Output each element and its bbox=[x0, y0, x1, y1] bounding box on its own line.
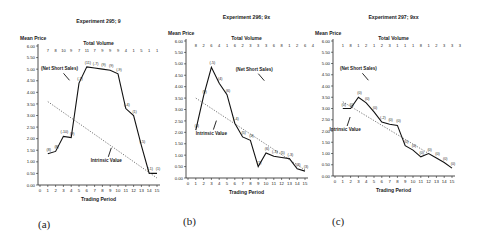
volume-value: 6 bbox=[273, 43, 276, 48]
x-tick-label: 4 bbox=[70, 188, 73, 193]
chart-title: Experiment 297; 9xx bbox=[368, 14, 418, 20]
volume-value: 10 bbox=[61, 48, 66, 53]
volume-value: 4 bbox=[218, 43, 221, 48]
volume-value: 1 bbox=[412, 43, 415, 48]
net-short-sales-label: (0) bbox=[373, 106, 377, 110]
net-short-sales-label: (-7) bbox=[93, 62, 99, 66]
y-tick-label: 6.00 bbox=[27, 44, 36, 49]
chart-title: Experiment 296; 9x bbox=[223, 14, 270, 20]
x-tick-label: 9 bbox=[109, 188, 112, 193]
volume-value: 9 bbox=[70, 48, 73, 53]
volume-value: 7 bbox=[78, 48, 81, 53]
x-tick-label: 6 bbox=[381, 179, 384, 184]
x-tick-label: 1 bbox=[195, 181, 198, 186]
x-tick-label: 0 bbox=[39, 188, 42, 193]
y-tick-label: 1.50 bbox=[175, 141, 184, 146]
volume-value: 1 bbox=[427, 43, 430, 48]
y-tick-label: 4.50 bbox=[27, 78, 36, 83]
volume-value: 1 bbox=[373, 43, 376, 48]
x-tick-label: 2 bbox=[202, 181, 205, 186]
net-short-sales-label: (8) bbox=[54, 145, 58, 149]
x-tick-label: 8 bbox=[396, 179, 399, 184]
intrinsic-value-annotation: Intrinsic Value bbox=[91, 158, 123, 163]
total-volume-label: Total Volume bbox=[378, 35, 409, 41]
x-tick-label: 10 bbox=[264, 181, 269, 186]
volume-value: 3 bbox=[459, 43, 462, 48]
volume-value: 8 bbox=[349, 43, 352, 48]
volume-value: 8 bbox=[280, 43, 283, 48]
y-tick-label: 6.00 bbox=[175, 39, 184, 44]
volume-value: 1 bbox=[132, 48, 135, 53]
volume-value: 9 bbox=[101, 48, 104, 53]
net-short-sales-label: (0) bbox=[435, 152, 439, 156]
net-short-sales-label: (0) bbox=[388, 118, 392, 122]
pointer-arrow bbox=[64, 73, 70, 80]
pointer-arrow bbox=[347, 117, 350, 126]
net-short-sales-label: (4) bbox=[249, 134, 253, 138]
x-tick-label: 11 bbox=[419, 179, 424, 184]
volume-value: 3 bbox=[257, 43, 260, 48]
x-tick-label: 3 bbox=[62, 188, 65, 193]
net-short-sales-label: (3) bbox=[304, 165, 308, 169]
y-tick-label: 4.50 bbox=[322, 72, 331, 77]
y-tick-label: 4.00 bbox=[175, 84, 184, 89]
net-short-sales-label: (6) bbox=[226, 89, 230, 93]
net-short-sales-label: (1) bbox=[132, 110, 136, 114]
volume-value: 3 bbox=[451, 43, 454, 48]
x-tick-label: 7 bbox=[388, 179, 391, 184]
x-tick-label: 12 bbox=[131, 188, 136, 193]
x-tick-label: 13 bbox=[287, 181, 292, 186]
x-tick-label: 11 bbox=[272, 181, 277, 186]
net-short-sales-label: (-1) bbox=[147, 167, 153, 171]
net-short-sales-label: (3) bbox=[296, 163, 300, 167]
volume-value: 8 bbox=[54, 48, 57, 53]
y-tick-label: 5.50 bbox=[27, 55, 36, 60]
net-short-sales-label: (0) bbox=[412, 144, 416, 148]
x-tick-label: 2 bbox=[349, 179, 352, 184]
total-volume-label: Total Volume bbox=[83, 40, 114, 46]
mean-price-line bbox=[343, 97, 452, 168]
y-tick-label: 2.00 bbox=[27, 136, 36, 141]
chart-experiment-295: Experiment 295; 9Mean Price0.000.501.001… bbox=[20, 18, 160, 202]
y-tick-label: 4.50 bbox=[175, 73, 184, 78]
x-tick-label: 1 bbox=[47, 188, 50, 193]
volume-value: 7 bbox=[93, 48, 96, 53]
x-tick-label: 5 bbox=[78, 188, 81, 193]
volume-value: 8 bbox=[420, 43, 423, 48]
x-tick-label: 10 bbox=[411, 179, 416, 184]
volume-value: 2 bbox=[202, 43, 205, 48]
net-short-sales-label: (-5) bbox=[210, 61, 216, 65]
volume-value: 9 bbox=[109, 48, 112, 53]
x-tick-label: 9 bbox=[404, 179, 407, 184]
x-tick-label: 4 bbox=[365, 179, 368, 184]
net-short-sales-label: (9) bbox=[70, 132, 74, 136]
x-tick-label: 4 bbox=[218, 181, 221, 186]
y-tick-label: 3.00 bbox=[175, 107, 184, 112]
x-tick-label: 14 bbox=[295, 181, 300, 186]
y-tick-label: 6.00 bbox=[322, 39, 331, 44]
y-tick-label: 1.00 bbox=[175, 153, 184, 158]
pointer-arrow bbox=[258, 74, 264, 81]
x-tick-label: 5 bbox=[226, 181, 229, 186]
y-tick-label: 5.00 bbox=[175, 61, 184, 66]
caption-b: (b) bbox=[183, 215, 196, 227]
volume-value: 3 bbox=[265, 43, 268, 48]
net-short-sales-annotation: (Net Short Sales) bbox=[340, 66, 377, 71]
x-tick-label: 1 bbox=[342, 179, 345, 184]
x-tick-label: 5 bbox=[373, 179, 376, 184]
total-volume-label: Total Volume bbox=[231, 35, 262, 41]
x-axis-label: Trading Period bbox=[81, 196, 116, 202]
y-tick-label: 1.50 bbox=[322, 140, 331, 145]
volume-value: 2 bbox=[241, 43, 244, 48]
y-tick-label: 5.00 bbox=[27, 67, 36, 72]
y-axis-label: Mean Price bbox=[20, 35, 47, 41]
y-tick-label: 5.00 bbox=[322, 61, 331, 66]
x-tick-label: 7 bbox=[241, 181, 244, 186]
net-short-sales-label: (0) bbox=[365, 97, 369, 101]
x-tick-label: 6 bbox=[234, 181, 237, 186]
pointer-arrow bbox=[108, 148, 111, 157]
volume-value: 4 bbox=[312, 43, 315, 48]
y-axis-label: Mean Price bbox=[315, 30, 342, 36]
x-tick-label: 14 bbox=[147, 188, 152, 193]
volume-value: 2 bbox=[296, 43, 299, 48]
